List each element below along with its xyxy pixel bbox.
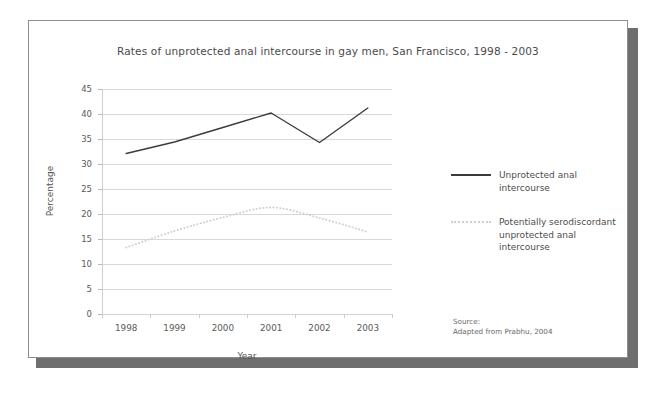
legend-label: Unprotected anal intercourse (499, 170, 577, 193)
source-citation: Adapted from Prabhu, 2004 (453, 327, 553, 337)
series-line (126, 108, 368, 154)
y-axis-tick-label: 25 (64, 185, 92, 194)
source-label: Source: (453, 317, 553, 327)
x-axis-tick (392, 314, 393, 318)
x-axis-tick-label: 2003 (348, 323, 388, 333)
series-line (126, 207, 368, 247)
y-axis-tick-label: 20 (64, 210, 92, 219)
x-axis-tick-label: 2002 (300, 323, 340, 333)
x-axis-tick-label: 2000 (203, 323, 243, 333)
y-axis-tick-label: 0 (64, 310, 92, 319)
y-axis-tick-label: 10 (64, 260, 92, 269)
y-axis-tick-label: 40 (64, 110, 92, 119)
x-axis-title: Year (102, 351, 392, 361)
x-axis-tick-label: 2001 (251, 323, 291, 333)
legend-label: Potentially serodiscordant unprotected a… (499, 217, 616, 252)
x-axis-tick-label: 1999 (155, 323, 195, 333)
y-axis-tick-label: 15 (64, 235, 92, 244)
legend-entry[interactable]: Potentially serodiscordant unprotected a… (451, 216, 626, 254)
dotted-line-icon (451, 221, 491, 223)
y-axis-tick-label: 5 (64, 285, 92, 294)
legend: Unprotected anal intercoursePotentially … (451, 169, 626, 276)
source-note: Source: Adapted from Prabhu, 2004 (453, 317, 553, 337)
y-axis-tick-label: 35 (64, 135, 92, 144)
legend-entry[interactable]: Unprotected anal intercourse (451, 169, 626, 194)
y-axis-tick-label: 45 (64, 85, 92, 94)
x-axis-tick-label: 1998 (106, 323, 146, 333)
y-axis-title: Percentage (45, 166, 55, 217)
data-series-plot (102, 89, 392, 315)
y-axis-tick-label: 30 (64, 160, 92, 169)
figure-frame: Rates of unprotected anal intercourse in… (28, 20, 628, 358)
solid-line-icon (451, 174, 491, 176)
